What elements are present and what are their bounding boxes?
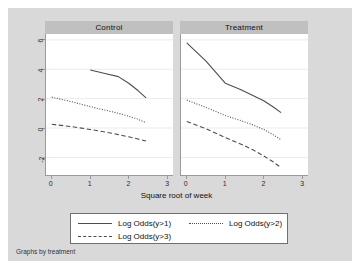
legend-label-1: Log Odds(y>2) bbox=[229, 218, 282, 229]
x-axis-control: 0123 bbox=[45, 176, 173, 192]
x-tick-label-p1-3: 3 bbox=[297, 180, 307, 187]
legend-swatch-solid bbox=[78, 223, 112, 224]
panel-title-treatment: Treatment bbox=[180, 21, 308, 34]
x-tick-label-p1-1: 1 bbox=[220, 180, 230, 187]
x-tick-mark bbox=[128, 176, 129, 179]
y-tick-label-2: 2 bbox=[38, 98, 45, 102]
x-tick-mark bbox=[263, 176, 264, 179]
plot-area-treatment bbox=[180, 34, 308, 176]
legend-swatch-dashed bbox=[78, 236, 112, 237]
x-tick-label-p0-1: 1 bbox=[85, 180, 95, 187]
x-tick-mark bbox=[51, 176, 52, 179]
x-tick-label-p1-2: 2 bbox=[258, 180, 268, 187]
figure-note: Graphs by treatment bbox=[16, 248, 75, 255]
figure-canvas: Control Treatment 6420-2 0123 0123 Squar… bbox=[8, 8, 352, 261]
plot-area-control bbox=[45, 34, 173, 176]
plot-lines-treatment bbox=[181, 34, 308, 175]
legend-label-2: Log Odds(y>3) bbox=[118, 231, 171, 242]
x-tick-mark bbox=[225, 176, 226, 179]
x-tick-mark bbox=[186, 176, 187, 179]
y-tick-label-4: -2 bbox=[38, 157, 45, 163]
x-tick-mark bbox=[90, 176, 91, 179]
x-axis-treatment: 0123 bbox=[180, 176, 308, 192]
y-tick-label-1: 4 bbox=[38, 68, 45, 72]
y-axis: 6420-2 bbox=[26, 34, 45, 176]
legend: Log Odds(y>1) Log Odds(y>2) Log Odds(y>3… bbox=[70, 213, 288, 244]
plot-lines-control bbox=[46, 34, 173, 175]
x-tick-label-p0-3: 3 bbox=[162, 180, 172, 187]
y-tick-label-3: 0 bbox=[38, 127, 45, 131]
x-axis-title: Square root of week bbox=[45, 191, 308, 200]
x-tick-label-p1-0: 0 bbox=[181, 180, 191, 187]
y-tick-label-0: 6 bbox=[38, 38, 45, 42]
x-tick-mark bbox=[167, 176, 168, 179]
legend-swatch-dotted bbox=[189, 223, 223, 224]
x-tick-mark bbox=[302, 176, 303, 179]
legend-label-0: Log Odds(y>1) bbox=[118, 218, 171, 229]
x-tick-label-p0-2: 2 bbox=[123, 180, 133, 187]
x-tick-label-p0-0: 0 bbox=[46, 180, 56, 187]
panel-title-control: Control bbox=[45, 21, 173, 34]
